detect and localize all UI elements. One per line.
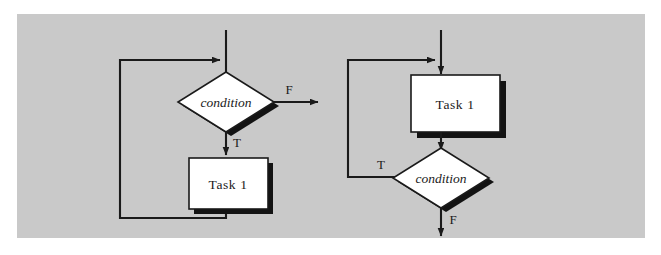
left-decision-node: condition: [178, 72, 279, 136]
right-process-label: Task 1: [435, 97, 474, 112]
right-false-label: F: [449, 212, 456, 227]
left-true-label: T: [233, 135, 241, 150]
right-true-label: T: [377, 157, 385, 172]
left-process-node: Task 1: [189, 158, 273, 214]
right-decision-node: condition: [393, 148, 494, 212]
right-decision-label: condition: [416, 171, 467, 186]
figure-panel: condition F T Task 1: [17, 14, 645, 238]
diagram-while-loop: condition F T Task 1: [17, 14, 645, 238]
left-true-edge: T: [226, 132, 241, 155]
right-process-node: Task 1: [411, 75, 506, 138]
left-false-edge: F: [274, 82, 318, 102]
screenshot-root: condition F T Task 1: [0, 0, 661, 255]
right-false-edge: F: [441, 208, 457, 236]
left-false-label: F: [285, 82, 292, 97]
left-process-label: Task 1: [208, 177, 247, 192]
left-decision-label: condition: [201, 95, 252, 110]
